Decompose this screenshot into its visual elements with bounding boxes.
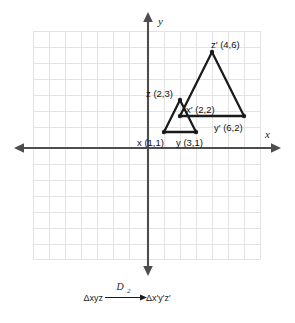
vertex-label-x: x (1,1) bbox=[137, 137, 164, 148]
vertex-dot-y-prime bbox=[242, 114, 246, 118]
x-axis-label: x bbox=[264, 128, 270, 140]
y-axis-label: y bbox=[157, 15, 163, 27]
x-axis-arrow-left bbox=[14, 143, 24, 153]
x-axis-arrow-right bbox=[271, 143, 281, 153]
coordinate-plane-figure: x y x (1,1) y (3,1) z (2,3) x′ (2,2) y′ … bbox=[0, 0, 295, 323]
vertex-label-z-prime: z′ (4,6) bbox=[211, 39, 240, 50]
vertex-dot-x-prime bbox=[178, 114, 182, 118]
caption-image-triangle: Δx′y′z′ bbox=[146, 293, 171, 303]
vertex-dot-y bbox=[194, 130, 198, 134]
vertex-label-z: z (2,3) bbox=[146, 88, 173, 99]
caption-mapping-subscript: 2 bbox=[127, 287, 131, 295]
y-axis-arrow-bottom bbox=[143, 266, 153, 276]
caption-mapping: Δxyz D 2 Δx′y′z′ bbox=[83, 281, 170, 303]
vertex-dot-x bbox=[162, 130, 166, 134]
vertex-label-y-prime: y′ (6,2) bbox=[214, 122, 243, 133]
caption-source-triangle: Δxyz bbox=[83, 293, 103, 303]
caption-mapping-symbol: D bbox=[115, 281, 124, 292]
vertex-dot-z bbox=[178, 98, 182, 102]
vertex-dot-z-prime bbox=[210, 50, 214, 54]
y-axis-arrow-top bbox=[143, 12, 153, 22]
diagram-canvas: x y x (1,1) y (3,1) z (2,3) x′ (2,2) y′ … bbox=[0, 0, 295, 323]
vertex-label-x-prime: x′ (2,2) bbox=[186, 104, 215, 115]
vertex-label-y: y (3,1) bbox=[176, 137, 203, 148]
